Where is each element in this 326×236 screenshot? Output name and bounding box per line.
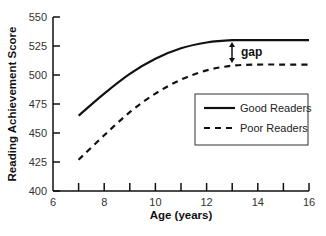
y-axis: 400425450475500525550 (29, 11, 60, 197)
chart: 400425450475500525550 6810121416 gap Goo… (0, 0, 326, 236)
arrow-up-icon (229, 42, 235, 47)
y-tick-label: 450 (29, 127, 47, 139)
y-axis-title: Reading Achievement Score (6, 27, 18, 182)
x-axis: 6810121416 (50, 183, 315, 208)
arrow-down-icon (229, 58, 235, 63)
y-tick-label: 475 (29, 98, 47, 110)
legend: Good Readers Poor Readers (195, 94, 312, 145)
x-tick-label: 16 (303, 196, 315, 208)
x-tick-label: 10 (149, 196, 161, 208)
y-tick-label: 525 (29, 40, 47, 52)
y-tick-label: 550 (29, 11, 47, 23)
x-tick-label: 6 (50, 196, 56, 208)
y-tick-label: 500 (29, 69, 47, 81)
x-tick-label: 12 (200, 196, 212, 208)
x-tick-label: 8 (101, 196, 107, 208)
legend-poor-readers: Poor Readers (240, 122, 308, 134)
gap-label: gap (241, 45, 262, 59)
x-tick-label: 14 (252, 196, 264, 208)
gap-annotation: gap (229, 42, 262, 63)
legend-good-readers: Good Readers (240, 102, 312, 114)
x-axis-title: Age (years) (150, 209, 213, 221)
y-tick-label: 400 (29, 185, 47, 197)
y-tick-label: 425 (29, 156, 47, 168)
